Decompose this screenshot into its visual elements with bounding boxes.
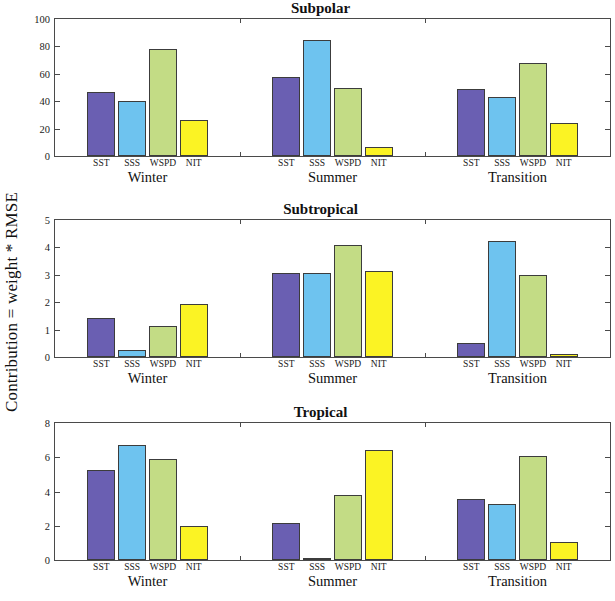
y-tick-label: 80 bbox=[40, 41, 51, 52]
x-tick-label-sss: SSS bbox=[124, 158, 140, 168]
y-tick-mark bbox=[55, 526, 60, 527]
y-tick-mark bbox=[605, 74, 610, 75]
x-tick-label-wspd: WSPD bbox=[150, 562, 176, 572]
y-tick-mark bbox=[55, 492, 60, 493]
x-tick-label-nit: NIT bbox=[186, 158, 202, 168]
x-tick-mark bbox=[240, 152, 241, 156]
bar-nit-summer bbox=[365, 147, 393, 156]
y-tick-label: 4 bbox=[45, 242, 50, 253]
bar-nit-transition bbox=[550, 542, 578, 560]
panel-title: Subtropical bbox=[26, 201, 615, 218]
group-label-winter: Winter bbox=[128, 370, 168, 387]
x-tick-label-sst: SST bbox=[278, 158, 294, 168]
bar-wspd-summer bbox=[334, 495, 362, 560]
bar-wspd-summer bbox=[334, 245, 362, 357]
group-label-winter: Winter bbox=[128, 169, 168, 186]
panel-title: Subpolar bbox=[26, 0, 615, 17]
bar-wspd-winter bbox=[149, 49, 177, 156]
x-tick-label-nit: NIT bbox=[371, 562, 387, 572]
x-tick-label-sst: SST bbox=[93, 158, 109, 168]
x-tick-label-sss: SSS bbox=[494, 562, 510, 572]
x-tick-label-wspd: WSPD bbox=[150, 359, 176, 369]
y-tick-mark bbox=[605, 457, 610, 458]
bar-nit-transition bbox=[550, 354, 578, 357]
bar-sst-winter bbox=[87, 92, 115, 156]
y-tick-label: 5 bbox=[45, 215, 50, 226]
bar-nit-winter bbox=[180, 120, 208, 156]
y-tick-mark bbox=[605, 129, 610, 130]
bar-sst-summer bbox=[272, 77, 300, 156]
y-tick-mark bbox=[55, 275, 60, 276]
bar-wspd-winter bbox=[149, 459, 177, 560]
x-tick-label-sss: SSS bbox=[494, 158, 510, 168]
bar-sst-transition bbox=[457, 89, 485, 156]
y-tick-mark bbox=[55, 129, 60, 130]
y-tick-label: 100 bbox=[34, 14, 50, 25]
y-tick-mark bbox=[55, 74, 60, 75]
x-tick-label-sst: SST bbox=[463, 562, 479, 572]
x-tick-label-sss: SSS bbox=[309, 158, 325, 168]
bar-nit-summer bbox=[365, 450, 393, 560]
x-tick-label-wspd: WSPD bbox=[150, 158, 176, 168]
y-tick-label: 2 bbox=[45, 297, 50, 308]
x-tick-label-sst: SST bbox=[278, 359, 294, 369]
x-tick-label-wspd: WSPD bbox=[335, 359, 361, 369]
bar-nit-transition bbox=[550, 123, 578, 156]
bar-sss-transition bbox=[488, 241, 516, 357]
y-tick-mark bbox=[605, 101, 610, 102]
y-tick-label: 40 bbox=[40, 96, 51, 107]
x-tick-label-nit: NIT bbox=[371, 158, 387, 168]
x-tick-mark bbox=[425, 423, 426, 427]
plot-area: 012345SSTSSSWSPDNITWinterSSTSSSWSPDNITSu… bbox=[54, 219, 611, 358]
x-tick-label-nit: NIT bbox=[556, 359, 572, 369]
bar-sss-summer bbox=[303, 40, 331, 156]
x-tick-label-sss: SSS bbox=[124, 562, 140, 572]
x-tick-label-wspd: WSPD bbox=[335, 158, 361, 168]
x-tick-label-wspd: WSPD bbox=[520, 562, 546, 572]
y-tick-mark bbox=[55, 101, 60, 102]
panel-tropical: Tropical02468SSTSSSWSPDNITWinterSSTSSSWS… bbox=[26, 404, 615, 601]
y-tick-mark bbox=[605, 46, 610, 47]
bar-sss-summer bbox=[303, 558, 331, 560]
bar-wspd-transition bbox=[519, 63, 547, 156]
bar-sst-summer bbox=[272, 523, 300, 560]
y-tick-label: 0 bbox=[45, 151, 50, 162]
y-tick-label: 0 bbox=[45, 555, 50, 566]
x-tick-label-sss: SSS bbox=[494, 359, 510, 369]
x-tick-mark bbox=[240, 423, 241, 427]
bar-sss-transition bbox=[488, 504, 516, 561]
x-tick-label-wspd: WSPD bbox=[520, 158, 546, 168]
x-tick-label-wspd: WSPD bbox=[335, 562, 361, 572]
bar-nit-summer bbox=[365, 271, 393, 357]
y-axis-label-container: Contribution = weight * RMSE bbox=[0, 0, 26, 601]
y-tick-label: 3 bbox=[45, 269, 50, 280]
bar-sss-transition bbox=[488, 97, 516, 156]
y-tick-label: 8 bbox=[45, 418, 50, 429]
panel-subtropical: Subtropical012345SSTSSSWSPDNITWinterSSTS… bbox=[26, 201, 615, 402]
x-tick-mark bbox=[425, 353, 426, 357]
y-tick-label: 0 bbox=[45, 352, 50, 363]
group-label-transition: Transition bbox=[488, 169, 547, 186]
group-label-summer: Summer bbox=[308, 169, 357, 186]
y-tick-label: 60 bbox=[40, 68, 51, 79]
y-tick-mark bbox=[55, 247, 60, 248]
bar-sst-summer bbox=[272, 273, 300, 357]
bar-sst-winter bbox=[87, 318, 115, 357]
x-tick-label-sss: SSS bbox=[309, 562, 325, 572]
group-label-summer: Summer bbox=[308, 573, 357, 590]
bar-nit-winter bbox=[180, 526, 208, 560]
x-tick-label-nit: NIT bbox=[371, 359, 387, 369]
plot-area: 02468SSTSSSWSPDNITWinterSSTSSSWSPDNITSum… bbox=[54, 422, 611, 561]
bar-sss-winter bbox=[118, 445, 146, 560]
bar-nit-winter bbox=[180, 304, 208, 357]
y-tick-mark bbox=[55, 302, 60, 303]
x-tick-mark bbox=[425, 19, 426, 23]
x-tick-label-nit: NIT bbox=[556, 158, 572, 168]
bar-chart-figure: Contribution = weight * RMSE Subpolar020… bbox=[0, 0, 615, 601]
x-tick-mark bbox=[425, 220, 426, 224]
bar-sss-winter bbox=[118, 350, 146, 357]
bar-sst-winter bbox=[87, 470, 115, 560]
y-tick-mark bbox=[605, 330, 610, 331]
bar-sss-summer bbox=[303, 273, 331, 357]
x-tick-label-sst: SST bbox=[463, 158, 479, 168]
